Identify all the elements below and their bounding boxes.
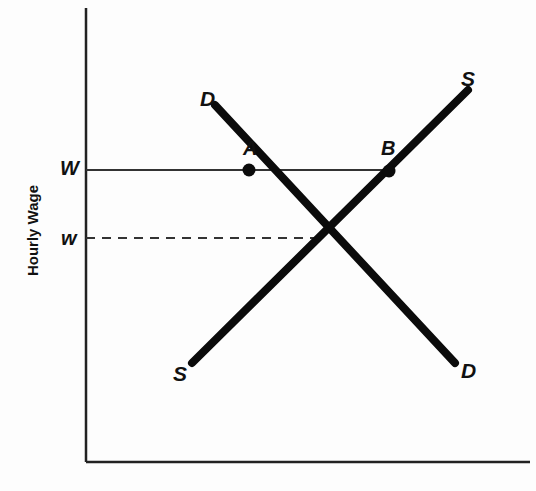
- point-b-label: B: [381, 138, 395, 158]
- supply-bottom-label: S: [173, 363, 187, 384]
- demand-bottom-label: D: [461, 360, 476, 381]
- demand-top-label: D: [200, 88, 215, 109]
- point-b-marker: [383, 165, 396, 178]
- point-a-label: A: [243, 138, 257, 158]
- supply-top-label: S: [461, 68, 475, 89]
- wage-equilibrium-label: w: [61, 228, 77, 248]
- y-axis-label: Hourly Wage: [24, 171, 41, 291]
- point-a-marker: [243, 164, 256, 177]
- wage-high-label: W: [60, 158, 79, 178]
- supply-demand-figure: Hourly Wage W w D S S D A B: [0, 0, 536, 491]
- supply-curve: [192, 90, 468, 363]
- plot-canvas: [0, 0, 536, 491]
